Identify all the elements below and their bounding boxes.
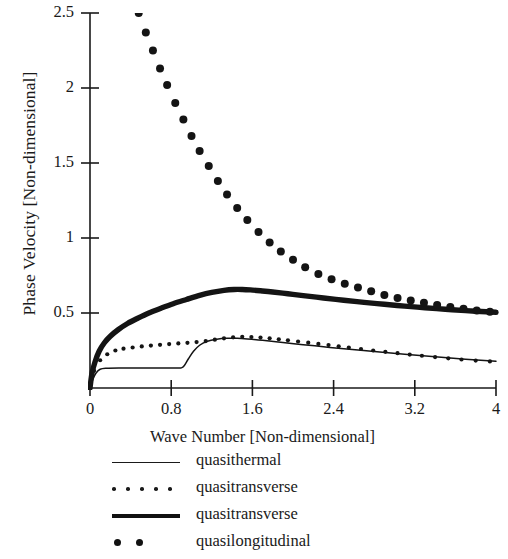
series-small-dots [92, 335, 492, 373]
series-large-dots [135, 9, 494, 316]
x-tick-label: 0.8 [151, 399, 191, 419]
x-tick-label: 4 [476, 399, 508, 419]
x-tick-label: 2.4 [314, 399, 354, 419]
legend-item: quasithermal [108, 449, 508, 476]
y-tick-label: 2 [34, 77, 74, 97]
legend: quasithermal quasitransverse quasitransv… [108, 449, 508, 557]
legend-label: quasitransverse [196, 477, 298, 497]
x-axis-title: Wave Number [Non-dimensional] [150, 427, 375, 447]
x-tick-label: 1.6 [232, 399, 272, 419]
data-series [90, 9, 496, 388]
x-tick-label: 0 [70, 399, 110, 419]
legend-label: quasitransverse [196, 504, 298, 524]
legend-key-thick-line [108, 503, 186, 530]
y-tick-label: 0.5 [34, 302, 74, 322]
y-tick-label: 1 [34, 227, 74, 247]
legend-key-small-dots [112, 487, 182, 491]
legend-item: quasitransverse [108, 476, 508, 503]
y-tick-label: 2.5 [34, 2, 74, 22]
legend-key-thin-line [108, 449, 186, 476]
legend-label: quasilongitudinal [196, 531, 311, 551]
legend-key-large-dots [114, 539, 184, 547]
legend-item: quasitransverse [108, 503, 508, 530]
legend-label: quasithermal [196, 450, 281, 470]
legend-item: quasilongitudinal [108, 530, 508, 557]
y-tick-label: 1.5 [34, 152, 74, 172]
x-tick-label: 3.2 [395, 399, 435, 419]
phase-velocity-figure: Phase Velocity [Non-dimensional] 0.511.5… [0, 0, 508, 559]
